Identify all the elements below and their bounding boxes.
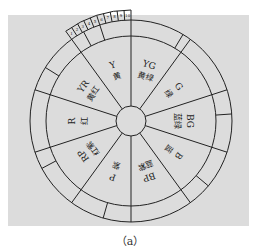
hue-name: 蓝 bbox=[163, 142, 176, 154]
hue-name: 蓝绿 bbox=[173, 113, 183, 129]
hue-name: 红 bbox=[79, 117, 89, 125]
scale-tick-label: 8 bbox=[113, 14, 116, 19]
hue-label-p: P紫 bbox=[107, 160, 121, 183]
hue-name: 黄绿 bbox=[136, 69, 154, 83]
outer-ring-divider bbox=[196, 176, 208, 186]
hue-label-rp: RP红紫 bbox=[75, 139, 102, 165]
scale-tick bbox=[110, 12, 112, 22]
hue-code: BP bbox=[142, 170, 157, 183]
scale-tick bbox=[103, 13, 105, 23]
sector-divider bbox=[35, 90, 117, 117]
hue-label-g: G绿 bbox=[163, 80, 186, 99]
outer-ring-divider bbox=[42, 161, 56, 169]
hue-label-bg: BG蓝绿 bbox=[173, 113, 195, 129]
hue-code: Y bbox=[107, 59, 118, 71]
hue-label-y: Y黄 bbox=[107, 59, 121, 82]
hue-code: G bbox=[173, 80, 185, 92]
outer-ring-divider bbox=[175, 34, 183, 48]
hue-name: 黄 bbox=[111, 70, 122, 82]
scale-tick-label: 3 bbox=[82, 24, 85, 29]
hue-code: YG bbox=[140, 58, 157, 72]
hue-label-yg: YG黄绿 bbox=[136, 58, 158, 84]
scale-tick-label: 9 bbox=[120, 13, 123, 18]
scale-tick-label: 7 bbox=[107, 15, 110, 20]
scale-tick-label: 2 bbox=[76, 27, 79, 32]
hue-name: 紫 bbox=[111, 160, 121, 171]
sector-divider bbox=[145, 126, 227, 153]
outer-ring-divider bbox=[84, 32, 92, 46]
scale-tick bbox=[117, 11, 118, 21]
outer-ring-divider bbox=[45, 67, 59, 75]
outer-ring-divider bbox=[103, 203, 107, 218]
scale-tick-label: 6 bbox=[100, 17, 103, 22]
hue-code: R bbox=[67, 117, 77, 124]
hue-label-bp: BP蓝紫 bbox=[136, 158, 158, 184]
hue-code: BG bbox=[185, 114, 195, 128]
hue-name: 蓝紫 bbox=[136, 158, 154, 172]
outer-ring-divider bbox=[216, 114, 232, 115]
sector-divider bbox=[145, 90, 227, 117]
sector-divider bbox=[35, 126, 117, 153]
hue-circle: 12345678910Y黄YG黄绿G绿BG蓝绿B蓝BP蓝紫P紫RP红紫R红YR黄… bbox=[0, 0, 260, 251]
hue-name: 绿 bbox=[163, 88, 175, 100]
center-hub bbox=[116, 106, 146, 136]
hue-label-r: R红 bbox=[67, 117, 89, 125]
outer-ring-divider bbox=[100, 25, 105, 40]
hue-code: B bbox=[173, 150, 185, 162]
scale-tick-label: 10 bbox=[125, 13, 131, 18]
figure-caption: （a） bbox=[0, 232, 260, 248]
scale-tick-label: 4 bbox=[88, 21, 91, 26]
hue-code: P bbox=[108, 171, 117, 182]
scale-tick-label: 1 bbox=[70, 31, 73, 36]
hue-label-yr: YR黄红 bbox=[75, 77, 102, 103]
hue-label-b: B蓝 bbox=[163, 142, 186, 161]
scale-tick-label: 5 bbox=[94, 19, 97, 24]
